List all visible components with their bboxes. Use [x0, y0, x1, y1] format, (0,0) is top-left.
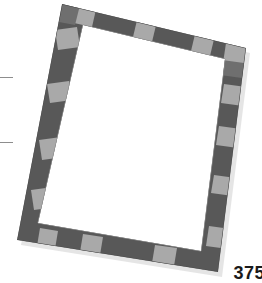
page-canvas: 375 — [0, 0, 262, 283]
lower-left-tick — [0, 142, 13, 143]
picture-frame-artwork — [0, 0, 262, 283]
upper-left-tick — [0, 77, 13, 78]
page-number: 375 — [233, 263, 262, 283]
